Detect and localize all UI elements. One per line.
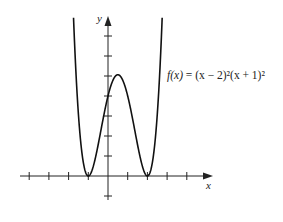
x-axis-label: x xyxy=(205,179,211,191)
function-graph: x y xyxy=(0,0,283,222)
y-axis-label: y xyxy=(96,12,102,24)
equation-lhs: f(x) xyxy=(167,69,183,81)
function-equation-label: f(x) = (x − 2)²(x + 1)² xyxy=(167,69,265,81)
y-axis-arrow-icon xyxy=(105,16,112,26)
equation-rhs: = (x − 2)²(x + 1)² xyxy=(183,69,265,81)
function-curve xyxy=(74,18,163,176)
